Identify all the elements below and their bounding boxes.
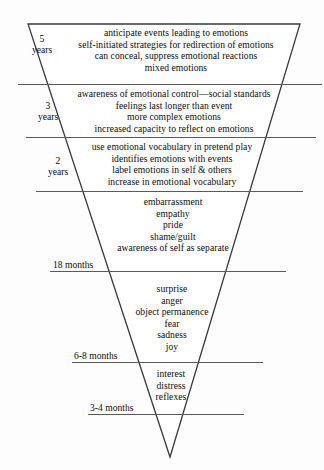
age-label-2-years: 2 years: [40, 155, 76, 178]
funnel-shape-group: [0, 0, 324, 470]
age-label-3-years-number: 3: [30, 100, 66, 111]
age-label-5-years-unit: years: [24, 44, 60, 55]
age-label-3-years-unit: years: [30, 111, 66, 122]
age-label-5-years-number: 5: [24, 33, 60, 44]
age-label-3-4-months: 3-4 months: [90, 402, 158, 413]
age-label-18-months-text: 18 months: [53, 259, 93, 270]
diagram-canvas: 5 years anticipate events leading to emo…: [0, 0, 324, 470]
age-label-6-8-months-text: 6-8 months: [74, 350, 117, 361]
age-label-3-4-months-text: 3-4 months: [90, 402, 133, 413]
age-label-18-months: 18 months: [53, 259, 115, 270]
age-label-2-years-unit: years: [40, 166, 76, 177]
age-label-5-years: 5 years: [24, 33, 60, 56]
inverted-triangle-outline: [28, 24, 300, 457]
age-label-2-years-number: 2: [40, 155, 76, 166]
age-label-3-years: 3 years: [30, 100, 66, 123]
age-label-6-8-months: 6-8 months: [74, 350, 142, 361]
